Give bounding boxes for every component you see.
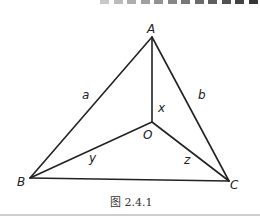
figure-caption: 图 2.4.1	[110, 196, 153, 209]
vertex-label-b: B	[17, 175, 25, 189]
segment-ob	[30, 122, 152, 178]
segment-oc	[152, 122, 229, 181]
vertex-label-a: A	[146, 22, 155, 36]
segment-label-z: z	[183, 153, 191, 167]
vertex-label-c: C	[230, 178, 239, 192]
segment-label-y: y	[88, 151, 97, 165]
segment-label-a: a	[82, 88, 89, 102]
segment-bc	[30, 178, 229, 181]
segment-label-b: b	[198, 88, 206, 102]
triangle-diagram: A B C O a b x y z 图 2.4.1	[0, 0, 260, 217]
point-label-o: O	[143, 128, 152, 142]
bottom-divider	[0, 214, 260, 216]
segment-label-x: x	[157, 101, 166, 115]
